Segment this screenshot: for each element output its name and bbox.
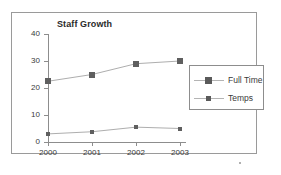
data-point-marker (134, 125, 138, 129)
series-line-temps (48, 127, 180, 134)
data-point-marker (177, 58, 183, 64)
legend-marker-full-time-icon (194, 76, 224, 85)
data-point-marker (89, 72, 95, 78)
x-axis-tick-label: 2003 (165, 148, 195, 157)
y-axis-tick-label: 20 (18, 83, 40, 92)
y-axis-tick-label: 0 (18, 137, 40, 146)
legend-marker-temps-icon (194, 94, 224, 103)
legend-item-temps[interactable]: Temps (194, 93, 253, 103)
legend-label-temps: Temps (228, 93, 253, 103)
chart-series-group (45, 58, 183, 136)
y-axis-tick-label: 10 (18, 110, 40, 119)
data-point-marker (133, 61, 139, 67)
data-point-marker (178, 127, 182, 131)
series-line-full-time (48, 61, 180, 81)
legend-item-full-time[interactable]: Full Time (194, 75, 262, 85)
x-axis-tick-label: 2000 (33, 148, 63, 157)
y-axis-tick-label: 30 (18, 56, 40, 65)
page-artifact-dot (239, 162, 241, 164)
x-axis-tick-label: 2002 (121, 148, 151, 157)
chart-legend: Full Time Temps (189, 65, 264, 110)
data-point-marker (90, 130, 94, 134)
data-point-marker (46, 132, 50, 136)
data-point-marker (45, 78, 51, 84)
x-axis-tick-label: 2001 (77, 148, 107, 157)
chart-frame: Staff Growth 010203040 2000200120022003 … (11, 12, 257, 154)
y-axis-tick-label: 40 (18, 29, 40, 38)
legend-label-full-time: Full Time (228, 75, 262, 85)
